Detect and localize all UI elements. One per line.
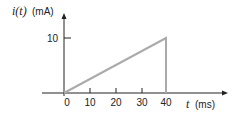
current-waveform (64, 38, 166, 93)
y-axis-label-unit: (mA) (32, 6, 54, 17)
x-axis-arrow-icon (222, 91, 228, 96)
y-tick-label: 10 (47, 33, 59, 44)
x-tick-label: 10 (84, 97, 96, 108)
y-axis-arrow-icon (62, 13, 67, 19)
x-tick-label: 40 (160, 97, 172, 108)
x-tick-label: 0 (64, 97, 70, 108)
x-axis-label-unit: (ms) (195, 99, 215, 110)
chart: 0 10 20 30 40 10 i(t) (mA) t (ms) (0, 0, 232, 120)
x-tick-label: 20 (110, 97, 122, 108)
y-axis-label-var: i(t) (12, 4, 27, 18)
x-tick-label: 30 (136, 97, 148, 108)
x-axis-label-var: t (186, 97, 190, 111)
